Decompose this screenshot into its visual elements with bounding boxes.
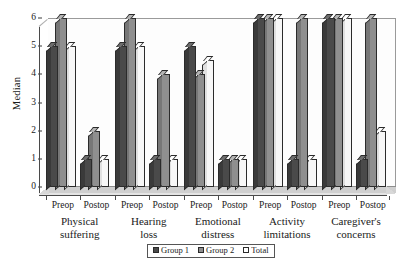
bar-side-face — [184, 47, 189, 190]
x-axis-group-label-line: distress — [195, 228, 241, 241]
y-axis-tick-label: 3 — [31, 98, 36, 108]
x-axis-sublabel: Postop — [153, 200, 179, 210]
x-axis-group-label-line: Emotional — [195, 215, 241, 228]
x-axis-sublabel: Preop — [259, 200, 281, 210]
plot-floor-wedge-right — [386, 186, 396, 194]
x-axis-group-label-line: Caregiver's — [331, 215, 381, 228]
x-axis-group-label-line: limitations — [263, 228, 310, 241]
bar-group-1 — [222, 159, 230, 187]
x-axis-sublabel: Preop — [328, 200, 350, 210]
bar-side-face — [46, 47, 51, 190]
x-axis-group-label: Hearingloss — [131, 215, 166, 241]
bar-group-1 — [326, 18, 334, 187]
y-axis-tick-label: 0 — [31, 182, 36, 192]
x-axis-group-label-line: suffering — [60, 228, 100, 241]
bar-group-1 — [119, 46, 127, 187]
bar-side-face — [287, 160, 292, 190]
x-axis-group-label: Emotionaldistress — [195, 215, 241, 241]
y-axis-tick-label: 6 — [31, 13, 36, 23]
bar-group-1 — [153, 159, 161, 187]
bars-layer — [39, 18, 396, 196]
bar-group-2 — [92, 131, 100, 187]
bar-group-1 — [84, 159, 92, 187]
bar-group-2 — [300, 18, 308, 187]
bar-total — [275, 18, 283, 187]
bar-total — [68, 46, 76, 187]
x-axis-sublabel: Postop — [291, 200, 317, 210]
legend-label: Group 2 — [206, 246, 234, 255]
x-axis-group-label-line: loss — [131, 228, 166, 241]
bar-total — [344, 18, 352, 187]
bar-group-2 — [369, 18, 377, 187]
bar-top-face — [81, 155, 91, 160]
x-axis-sublabel: Preop — [121, 200, 143, 210]
bar-group-2 — [266, 18, 274, 187]
legend-label: Total — [251, 246, 268, 255]
bar-top-face — [203, 56, 213, 61]
x-axis-sublabel: Postop — [222, 200, 248, 210]
x-axis-group-label-line: Physical — [60, 215, 100, 228]
bar-top-face — [219, 155, 229, 160]
bar-group-1 — [257, 18, 265, 187]
x-axis-sublabel: Preop — [52, 200, 74, 210]
bar-group-2 — [59, 18, 67, 187]
x-axis-group-label-line: Activity — [263, 215, 310, 228]
bar-side-face — [218, 160, 223, 190]
bar-top-face — [89, 127, 99, 132]
legend-item-group-1: Group 1 — [153, 246, 189, 255]
bar-top-face — [56, 14, 66, 19]
bar-group-1 — [360, 159, 368, 187]
bar-side-face — [149, 160, 154, 190]
legend-swatch-group-1 — [153, 247, 159, 253]
bar-group-2 — [161, 74, 169, 187]
bar-total — [206, 60, 214, 187]
bar-side-face — [80, 160, 85, 190]
y-axis-tick-group: 0123456 — [0, 0, 44, 263]
bar-chart-figure: Median 0123456 PreopPostopPreopPostopPre… — [0, 0, 406, 263]
legend-swatch-group-2 — [198, 247, 204, 253]
bar-group-2 — [128, 18, 136, 187]
x-axis-group-label-line: concerns — [331, 228, 381, 241]
bar-total — [170, 159, 178, 187]
bar-top-face — [254, 14, 264, 19]
x-axis-sublabel: Preop — [190, 200, 212, 210]
legend-swatch-total — [243, 247, 249, 253]
bar-group-1 — [291, 159, 299, 187]
bar-side-face — [322, 19, 327, 190]
bar-total — [101, 159, 109, 187]
bar-group-1 — [50, 46, 58, 187]
bar-top-face — [158, 70, 168, 75]
bar-side-face — [356, 160, 361, 190]
bar-group-1 — [188, 46, 196, 187]
x-axis-group-label: Caregiver'sconcerns — [331, 215, 381, 241]
bar-top-face — [323, 14, 333, 19]
chart-legend: Group 1Group 2Total — [147, 244, 275, 258]
bar-total — [239, 159, 247, 187]
bar-top-face — [297, 14, 307, 19]
plot-area — [39, 18, 396, 196]
bar-top-face — [125, 14, 135, 19]
bar-group-2 — [231, 159, 239, 187]
y-axis-tick-label: 4 — [31, 70, 36, 80]
y-axis-tick-label: 5 — [31, 41, 36, 51]
legend-item-total: Total — [243, 246, 268, 255]
x-axis-group-label: Activitylimitations — [263, 215, 310, 241]
bar-total — [137, 46, 145, 187]
bar-side-face — [115, 47, 120, 190]
x-axis-group-label: Physicalsuffering — [60, 215, 100, 241]
y-axis-tick-label: 2 — [31, 126, 36, 136]
legend-item-group-2: Group 2 — [198, 246, 234, 255]
x-axis-sublabel-group: PreopPostopPreopPostopPreopPostopPreopPo… — [39, 200, 396, 216]
bar-top-face — [150, 155, 160, 160]
x-axis-sublabel: Postop — [83, 200, 109, 210]
legend-label: Group 1 — [161, 246, 189, 255]
bar-group-2 — [197, 74, 205, 187]
bar-group-2 — [335, 18, 343, 187]
bar-top-face — [185, 42, 195, 47]
y-axis-tick-label: 1 — [31, 154, 36, 164]
bar-total — [378, 131, 386, 187]
x-axis-group-label-line: Hearing — [131, 215, 166, 228]
bar-side-face — [253, 19, 258, 190]
bar-top-face — [366, 14, 376, 19]
bar-total — [308, 159, 316, 187]
